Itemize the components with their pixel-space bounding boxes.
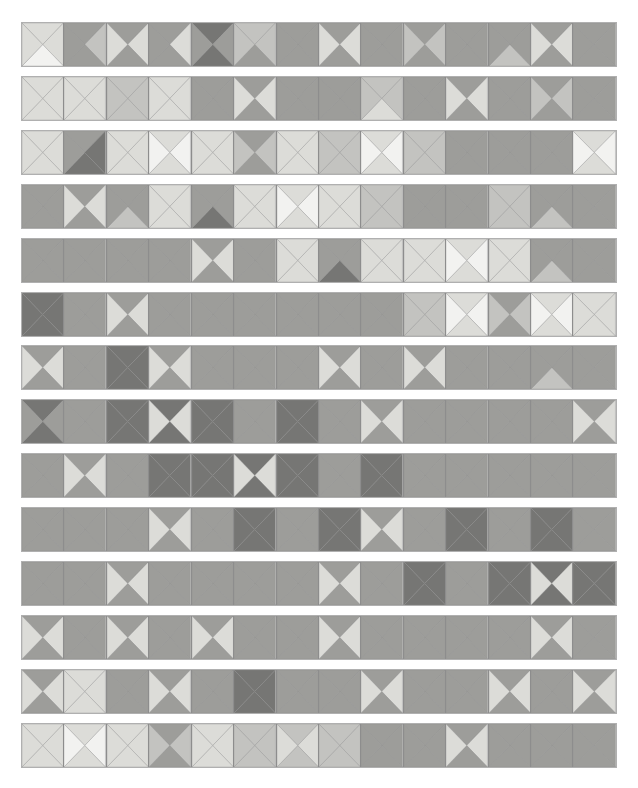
pattern-tile <box>319 293 361 336</box>
pattern-tile <box>107 400 149 443</box>
pattern-tile <box>149 508 191 551</box>
pattern-tile <box>531 131 573 174</box>
pattern-tile <box>64 454 106 497</box>
pattern-tile <box>531 346 573 389</box>
pattern-tile <box>404 23 446 66</box>
pattern-tile <box>107 616 149 659</box>
pattern-tile <box>107 131 149 174</box>
pattern-tile <box>192 508 234 551</box>
pattern-tile <box>531 562 573 605</box>
pattern-tile <box>277 724 319 767</box>
pattern-tile <box>149 293 191 336</box>
pattern-tile <box>107 23 149 66</box>
pattern-tile <box>489 131 531 174</box>
pattern-tile <box>277 670 319 713</box>
pattern-tile <box>361 185 403 228</box>
pattern-tile <box>107 293 149 336</box>
pattern-tile <box>319 131 361 174</box>
pattern-strip <box>21 615 617 660</box>
pattern-tile <box>531 454 573 497</box>
pattern-tile <box>446 185 488 228</box>
pattern-tile <box>107 724 149 767</box>
pattern-tile <box>149 131 191 174</box>
pattern-tile <box>22 670 64 713</box>
pattern-tile <box>531 670 573 713</box>
pattern-tile <box>192 131 234 174</box>
pattern-tile <box>446 724 488 767</box>
pattern-strip <box>21 130 617 175</box>
pattern-tile <box>531 724 573 767</box>
pattern-tile <box>573 23 615 66</box>
pattern-tile <box>573 562 615 605</box>
pattern-tile <box>361 670 403 713</box>
pattern-tile <box>22 616 64 659</box>
pattern-tile <box>64 77 106 120</box>
pattern-tile <box>489 724 531 767</box>
pattern-tile <box>192 77 234 120</box>
pattern-tile <box>64 616 106 659</box>
pattern-strip <box>21 399 617 444</box>
pattern-tile <box>404 131 446 174</box>
pattern-tile <box>446 131 488 174</box>
pattern-tile <box>64 400 106 443</box>
pattern-tile <box>149 77 191 120</box>
pattern-tile <box>192 400 234 443</box>
pattern-tile <box>277 185 319 228</box>
pattern-tile <box>446 670 488 713</box>
pattern-tile <box>319 616 361 659</box>
pattern-tile <box>361 239 403 282</box>
pattern-tile <box>22 293 64 336</box>
pattern-tile <box>361 346 403 389</box>
pattern-tile <box>489 562 531 605</box>
pattern-tile <box>234 346 276 389</box>
pattern-tile <box>22 724 64 767</box>
pattern-tile <box>192 454 234 497</box>
pattern-strip <box>21 292 617 337</box>
pattern-tile <box>64 239 106 282</box>
pattern-tile <box>531 400 573 443</box>
pattern-tile <box>234 616 276 659</box>
pattern-tile <box>446 77 488 120</box>
pattern-tile <box>446 293 488 336</box>
pattern-tile <box>573 670 615 713</box>
pattern-tile <box>573 77 615 120</box>
pattern-tile <box>22 454 64 497</box>
pattern-tile <box>361 400 403 443</box>
pattern-strip <box>21 561 617 606</box>
pattern-tile <box>573 239 615 282</box>
pattern-tile <box>22 131 64 174</box>
pattern-tile <box>361 131 403 174</box>
pattern-tile <box>361 562 403 605</box>
pattern-tile <box>404 508 446 551</box>
pattern-tile <box>234 185 276 228</box>
pattern-tile <box>277 131 319 174</box>
pattern-tile <box>361 508 403 551</box>
pattern-tile <box>319 239 361 282</box>
pattern-tile <box>107 670 149 713</box>
pattern-tile <box>404 400 446 443</box>
pattern-tile <box>192 185 234 228</box>
pattern-tile <box>234 454 276 497</box>
pattern-tile <box>489 454 531 497</box>
pattern-tile <box>149 23 191 66</box>
pattern-tile <box>573 508 615 551</box>
pattern-tile <box>277 454 319 497</box>
pattern-tile <box>22 185 64 228</box>
pattern-tile <box>192 670 234 713</box>
pattern-tile <box>107 346 149 389</box>
pattern-canvas <box>0 0 638 788</box>
pattern-tile <box>149 670 191 713</box>
pattern-tile <box>531 77 573 120</box>
pattern-tile <box>446 346 488 389</box>
pattern-tile <box>64 508 106 551</box>
pattern-tile <box>489 77 531 120</box>
pattern-tile <box>361 77 403 120</box>
pattern-tile <box>404 239 446 282</box>
pattern-tile <box>64 346 106 389</box>
pattern-strip <box>21 669 617 714</box>
pattern-tile <box>319 400 361 443</box>
pattern-tile <box>319 454 361 497</box>
pattern-tile <box>107 508 149 551</box>
pattern-tile <box>361 23 403 66</box>
pattern-tile <box>22 508 64 551</box>
